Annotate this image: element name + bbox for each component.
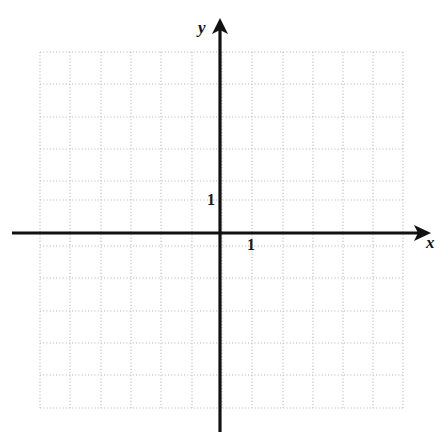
plot-area xyxy=(0,0,443,435)
x-axis-label: x xyxy=(426,234,435,251)
y-axis-label: y xyxy=(198,19,206,36)
x-axis-tick-label-1: 1 xyxy=(247,237,255,253)
y-axis-tick-label-1: 1 xyxy=(207,192,215,208)
coordinate-grid-figure: y x 1 1 xyxy=(0,0,443,435)
